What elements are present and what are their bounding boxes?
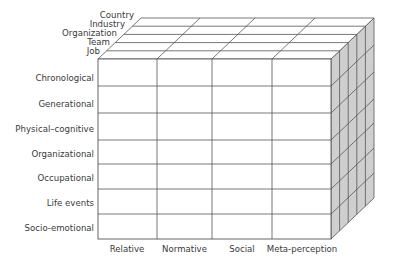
depth-label-country: Country <box>60 10 134 20</box>
row-label-life-events: Life events <box>0 198 94 208</box>
cube-diagram: Job Team Organization Industry Country C… <box>0 0 395 265</box>
depth-label-job: Job <box>60 46 100 56</box>
row-label-physical-cognitive: Physical–cognitive <box>0 124 94 134</box>
column-label-relative: Relative <box>98 244 156 254</box>
row-label-occupational: Occupational <box>0 173 94 183</box>
depth-label-organization: Organization <box>40 28 117 38</box>
column-label-meta-perception: Meta-perception <box>262 244 342 254</box>
row-label-chronological: Chronological <box>0 73 94 83</box>
row-label-organizational: Organizational <box>0 149 94 159</box>
depth-label-industry: Industry <box>60 19 125 29</box>
row-label-socio-emotional: Socio-emotional <box>0 223 94 233</box>
row-label-generational: Generational <box>0 99 94 109</box>
depth-label-team: Team <box>60 37 110 47</box>
column-label-normative: Normative <box>156 244 213 254</box>
top-face <box>98 18 374 59</box>
